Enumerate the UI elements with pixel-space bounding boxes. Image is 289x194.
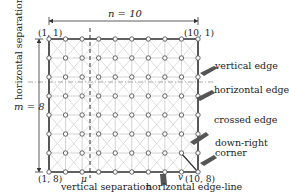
grid-node <box>63 56 67 60</box>
grid-node <box>47 56 51 60</box>
grid-node <box>163 113 167 117</box>
annotation-horizontal-edge: horizontal edge <box>214 85 289 95</box>
height-label: m = 8 <box>14 102 45 112</box>
grid-node <box>163 37 167 41</box>
annotation-vertical-edge: vertical edge <box>215 61 278 71</box>
grid-node <box>179 151 183 155</box>
grid-node <box>146 113 150 117</box>
grid-node <box>47 151 51 155</box>
grid-node <box>96 94 100 98</box>
grid-node <box>130 113 134 117</box>
grid-node <box>113 113 117 117</box>
grid-node <box>130 37 134 41</box>
grid-node <box>163 56 167 60</box>
grid-node <box>130 75 134 79</box>
grid-node <box>196 113 200 117</box>
grid-node <box>80 151 84 155</box>
grid-node <box>80 113 84 117</box>
grid-node <box>130 151 134 155</box>
grid-node <box>146 56 150 60</box>
grid-node <box>63 170 67 174</box>
grid-node <box>196 151 200 155</box>
grid-node <box>146 75 150 79</box>
grid-node <box>80 132 84 136</box>
grid-node <box>80 75 84 79</box>
grid-node <box>96 75 100 79</box>
grid-node <box>47 113 51 117</box>
grid-node <box>113 37 117 41</box>
horizontal-separation-label: horizontal separation <box>14 0 24 100</box>
grid-node <box>113 75 117 79</box>
grid-node <box>63 132 67 136</box>
grid-node <box>130 56 134 60</box>
vertical-separation-label: vertical separation <box>61 182 152 192</box>
grid-node <box>179 132 183 136</box>
grid-node <box>63 37 67 41</box>
grid-node <box>63 151 67 155</box>
grid-node <box>96 56 100 60</box>
crossed-edges <box>49 39 198 172</box>
grid-node <box>146 170 150 174</box>
grid-node <box>63 113 67 117</box>
grid-node <box>113 132 117 136</box>
grid-node <box>179 75 183 79</box>
grid-node <box>80 94 84 98</box>
grid-node <box>179 37 183 41</box>
grid-node <box>163 170 167 174</box>
annotation-horizontal-edge-line: horizontal edge-line <box>146 182 242 192</box>
grid-node <box>47 94 51 98</box>
corner-label-top-left: (1, 1) <box>38 29 62 38</box>
grid-node <box>113 56 117 60</box>
annotation-down-right-line2: corner <box>215 148 247 158</box>
grid-node <box>113 94 117 98</box>
grid-node <box>196 56 200 60</box>
grid-node <box>96 37 100 41</box>
grid-node <box>96 151 100 155</box>
width-label: n = 10 <box>108 9 142 19</box>
grid-node <box>179 56 183 60</box>
grid-node <box>96 170 100 174</box>
grid-node <box>130 94 134 98</box>
grid-node <box>80 37 84 41</box>
grid-node <box>80 56 84 60</box>
grid-node <box>179 94 183 98</box>
grid-node <box>113 151 117 155</box>
grid-node <box>130 170 134 174</box>
corner-label-bottom-left: (1, 8) <box>38 175 62 184</box>
grid-node <box>146 37 150 41</box>
grid-node <box>47 75 51 79</box>
grid-node <box>63 75 67 79</box>
grid-node <box>163 75 167 79</box>
corner-label-top-right: (10, 1) <box>184 29 214 38</box>
grid-node <box>146 132 150 136</box>
grid-node <box>163 94 167 98</box>
grid-node <box>163 132 167 136</box>
grid-node <box>96 132 100 136</box>
grid-node <box>130 132 134 136</box>
grid-node <box>196 75 200 79</box>
grid-node <box>179 113 183 117</box>
grid-node <box>146 94 150 98</box>
grid-node <box>113 170 117 174</box>
grid-node <box>96 113 100 117</box>
annotation-crossed-edge: crossed edge <box>214 115 277 125</box>
grid-node <box>146 151 150 155</box>
grid-node <box>196 132 200 136</box>
grid-node <box>163 151 167 155</box>
grid-node <box>47 132 51 136</box>
grid-node <box>63 94 67 98</box>
